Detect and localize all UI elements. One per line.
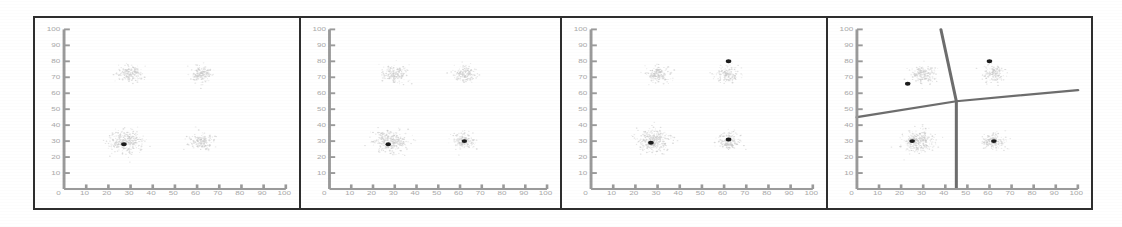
svg-text:0: 0	[849, 190, 854, 197]
panel-2-plot: 1020304050607080901001020304050607080901…	[301, 18, 560, 208]
svg-text:70: 70	[844, 74, 853, 81]
svg-text:80: 80	[762, 191, 771, 198]
svg-text:40: 40	[578, 122, 587, 129]
svg-text:90: 90	[784, 191, 793, 198]
svg-text:80: 80	[844, 58, 853, 65]
svg-text:10: 10	[578, 170, 587, 177]
svg-text:40: 40	[844, 122, 853, 129]
svg-text:70: 70	[740, 191, 749, 198]
svg-text:70: 70	[578, 74, 587, 81]
svg-text:60: 60	[317, 90, 326, 96]
svg-text:60: 60	[578, 90, 587, 97]
svg-text:60: 60	[844, 90, 853, 97]
svg-text:10: 10	[607, 191, 616, 198]
panel-2: 1020304050607080901001020304050607080901…	[301, 18, 560, 208]
svg-text:30: 30	[844, 138, 853, 145]
svg-text:20: 20	[629, 191, 638, 198]
svg-text:100: 100	[539, 190, 552, 196]
svg-text:50: 50	[696, 191, 705, 198]
svg-text:30: 30	[651, 191, 660, 198]
svg-text:90: 90	[519, 190, 528, 196]
panel-4-plot: 1020304050607080901001020304050607080901…	[828, 18, 1091, 208]
svg-text:90: 90	[1050, 190, 1059, 197]
svg-text:70: 70	[213, 191, 222, 198]
svg-text:100: 100	[574, 27, 588, 34]
svg-text:80: 80	[578, 58, 587, 65]
svg-text:30: 30	[51, 138, 60, 145]
svg-text:20: 20	[578, 154, 587, 161]
figure-frame: 1020304050607080901001020304050607080901…	[33, 16, 1093, 210]
svg-text:30: 30	[389, 190, 398, 196]
svg-text:20: 20	[367, 190, 376, 196]
svg-text:40: 40	[939, 190, 948, 197]
svg-text:40: 40	[674, 191, 683, 198]
svg-text:50: 50	[844, 106, 853, 113]
svg-text:30: 30	[917, 190, 926, 197]
svg-text:0: 0	[322, 190, 327, 196]
svg-text:80: 80	[498, 190, 507, 196]
svg-text:50: 50	[432, 190, 441, 196]
svg-text:50: 50	[578, 106, 587, 113]
svg-text:10: 10	[873, 190, 882, 197]
svg-text:50: 50	[961, 190, 970, 197]
svg-text:100: 100	[804, 191, 818, 198]
svg-text:70: 70	[317, 74, 326, 80]
svg-text:60: 60	[191, 191, 200, 198]
svg-text:10: 10	[80, 191, 89, 198]
svg-text:40: 40	[410, 190, 419, 196]
panel-4: 1020304050607080901001020304050607080901…	[828, 18, 1091, 208]
svg-text:100: 100	[47, 27, 61, 34]
svg-text:40: 40	[147, 191, 156, 198]
svg-text:60: 60	[454, 190, 463, 196]
svg-text:20: 20	[844, 154, 853, 161]
svg-text:10: 10	[317, 170, 326, 176]
svg-text:20: 20	[102, 191, 111, 198]
svg-text:10: 10	[51, 170, 60, 177]
svg-text:100: 100	[840, 27, 854, 34]
panel-1: 1020304050607080901001020304050607080901…	[35, 18, 299, 208]
svg-text:20: 20	[317, 154, 326, 160]
svg-text:10: 10	[345, 190, 354, 196]
svg-text:30: 30	[317, 138, 326, 144]
svg-text:60: 60	[983, 190, 992, 197]
svg-text:100: 100	[277, 191, 291, 198]
svg-text:0: 0	[583, 190, 588, 197]
svg-text:100: 100	[312, 26, 325, 32]
svg-text:40: 40	[51, 122, 60, 129]
svg-text:40: 40	[317, 122, 326, 128]
svg-text:10: 10	[844, 170, 853, 177]
svg-text:100: 100	[1069, 190, 1083, 197]
panel-1-plot: 1020304050607080901001020304050607080901…	[35, 18, 299, 208]
svg-text:80: 80	[51, 58, 60, 65]
svg-text:20: 20	[895, 190, 904, 197]
svg-text:70: 70	[1005, 190, 1014, 197]
panel-3-plot: 1020304050607080901001020304050607080901…	[562, 18, 826, 208]
svg-text:90: 90	[317, 42, 326, 48]
svg-text:70: 70	[476, 190, 485, 196]
figure-root: 1020304050607080901001020304050607080901…	[0, 0, 1122, 227]
svg-text:80: 80	[235, 191, 244, 198]
svg-text:20: 20	[51, 154, 60, 161]
svg-text:90: 90	[257, 191, 266, 198]
svg-text:30: 30	[578, 138, 587, 145]
svg-text:60: 60	[51, 90, 60, 97]
svg-text:80: 80	[317, 58, 326, 64]
svg-text:50: 50	[169, 191, 178, 198]
svg-text:80: 80	[1028, 190, 1037, 197]
svg-text:50: 50	[51, 106, 60, 113]
svg-text:70: 70	[51, 74, 60, 81]
panel-3: 1020304050607080901001020304050607080901…	[562, 18, 826, 208]
svg-text:90: 90	[51, 42, 60, 49]
svg-text:30: 30	[124, 191, 133, 198]
svg-text:90: 90	[844, 42, 853, 49]
svg-text:90: 90	[578, 42, 587, 49]
svg-text:60: 60	[718, 191, 727, 198]
svg-text:50: 50	[317, 106, 326, 112]
svg-text:0: 0	[56, 190, 61, 197]
